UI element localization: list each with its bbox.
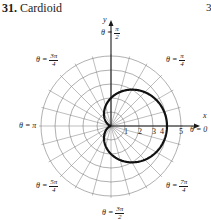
x-tick-5: 5 [179,128,183,136]
radial-line [60,126,111,177]
angle-label-3pi-over-4: θ = 3π4 [36,53,58,68]
angle-label-pi-over-4: θ = π4 [166,53,185,68]
radial-line [60,75,111,126]
angle-label-pi-over-2: θ = π2 [101,26,120,41]
y-axis-label: y [103,16,107,24]
angle-label-3pi-over-2: θ = 3π2 [102,206,124,220]
x-tick-3: 3 [152,128,156,136]
x-axis-label: x [203,112,207,120]
angle-label-0: θ = 0 [190,126,207,134]
x-tick-2: 2 [138,128,142,136]
radial-line [111,75,162,126]
angle-label-5pi-over-4: θ = 5π4 [36,179,58,194]
angle-label-pi: θ = π [19,122,36,130]
x-tick-1: 1 [124,128,128,136]
x-tick-4: 4 [160,128,164,136]
angle-label-7pi-over-4: θ = 7π4 [166,179,188,194]
